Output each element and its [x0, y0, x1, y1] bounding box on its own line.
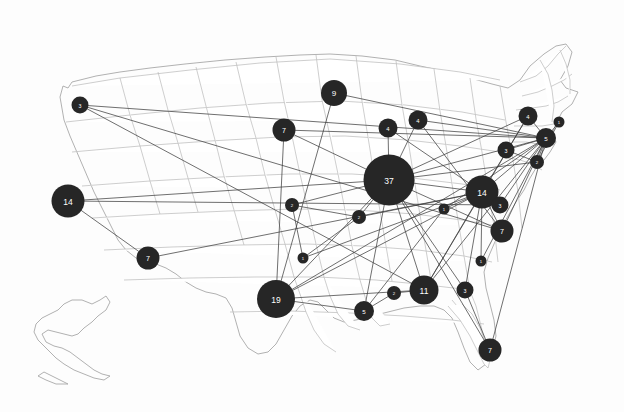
border-ne7: [540, 60, 554, 122]
state-boundaries: [34, 44, 578, 384]
map-node[interactable]: 19: [257, 280, 295, 318]
alaska-aleutians: [38, 372, 68, 384]
map-node[interactable]: 7: [491, 220, 514, 243]
node-circle[interactable]: [137, 247, 160, 270]
map-node[interactable]: 4: [409, 111, 428, 130]
connection-line: [276, 290, 424, 299]
node-circle[interactable]: [321, 80, 347, 106]
node-circle[interactable]: [519, 107, 538, 126]
connection-line: [490, 138, 546, 350]
node-circle[interactable]: [352, 210, 366, 224]
node-circle[interactable]: [491, 220, 514, 243]
node-circle[interactable]: [536, 128, 556, 148]
map-node[interactable]: 9: [321, 80, 347, 106]
map-node[interactable]: 2: [387, 286, 401, 300]
map-node[interactable]: 3: [498, 142, 515, 159]
map-node[interactable]: 3: [72, 97, 89, 114]
border-ne1: [520, 46, 566, 82]
map-node[interactable]: 1: [554, 117, 565, 128]
node-circle[interactable]: [476, 256, 487, 267]
node-circle[interactable]: [354, 301, 374, 321]
node-circle[interactable]: [554, 117, 565, 128]
node-circle[interactable]: [410, 276, 439, 305]
map-node[interactable]: 2: [352, 210, 366, 224]
map-node[interactable]: 1: [439, 204, 450, 215]
node-circle[interactable]: [479, 339, 502, 362]
map-node[interactable]: 2: [530, 155, 544, 169]
proportional-symbol-map: 31477944372211952113711143732541: [0, 0, 624, 412]
node-circle[interactable]: [72, 97, 89, 114]
map-node[interactable]: 4: [379, 119, 398, 138]
node-circle[interactable]: [439, 204, 450, 215]
node-circle[interactable]: [387, 286, 401, 300]
node-circle[interactable]: [285, 198, 299, 212]
map-node[interactable]: 4: [519, 107, 538, 126]
node-circle[interactable]: [257, 280, 295, 318]
node-circle[interactable]: [273, 119, 296, 142]
map-canvas: 31477944372211952113711143732541: [0, 0, 624, 412]
map-node[interactable]: 5: [354, 301, 374, 321]
map-node[interactable]: 1: [298, 253, 309, 264]
map-node[interactable]: 7: [479, 339, 502, 362]
node-circle[interactable]: [498, 142, 515, 159]
border-h4: [82, 174, 500, 190]
map-node[interactable]: 14: [52, 185, 85, 218]
map-node[interactable]: 3: [492, 197, 509, 214]
node-circle[interactable]: [379, 119, 398, 138]
map-node[interactable]: 2: [285, 198, 299, 212]
node-circle[interactable]: [52, 185, 85, 218]
map-node[interactable]: 7: [137, 247, 160, 270]
node-circle[interactable]: [492, 197, 509, 214]
node-circle[interactable]: [530, 155, 544, 169]
node-circle[interactable]: [298, 253, 309, 264]
map-node[interactable]: 1: [476, 256, 487, 267]
map-node[interactable]: 11: [410, 276, 439, 305]
alaska-outline: [34, 296, 110, 380]
map-node[interactable]: 7: [273, 119, 296, 142]
map-node[interactable]: 5: [536, 128, 556, 148]
node-circle[interactable]: [364, 155, 415, 206]
map-node[interactable]: 3: [457, 282, 474, 299]
node-circle[interactable]: [457, 282, 474, 299]
node-circle[interactable]: [409, 111, 428, 130]
map-node[interactable]: 37: [364, 155, 415, 206]
